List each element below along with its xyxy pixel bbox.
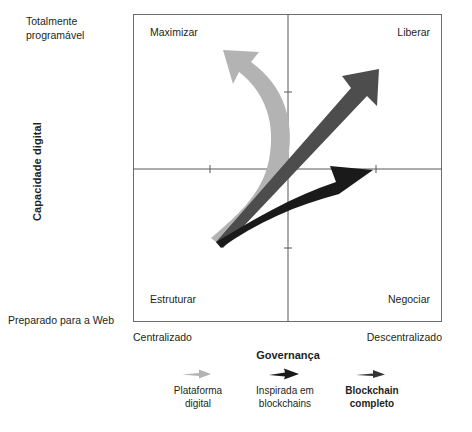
legend-arrow-light-icon	[181, 366, 215, 382]
legend-label-blockchain-completo: Blockchain completo	[345, 385, 398, 410]
legend-item-plataforma-digital: Plataforma digital	[160, 366, 236, 410]
x-axis-title: Governança	[190, 349, 386, 362]
x-axis-left-label: Centralizado	[133, 331, 192, 344]
legend-arrow-black-icon	[355, 366, 389, 382]
y-axis-bottom-label: Preparado para a Web	[8, 314, 130, 327]
quadrant-label-liberar: Liberar	[330, 26, 430, 38]
legend-label-inspirada-blockchains: Inspirada em blockchains	[256, 385, 314, 410]
x-axis-right-label: Descentralizado	[330, 331, 442, 344]
legend-label-plataforma-digital: Plataforma digital	[174, 385, 222, 410]
chart-legend: Plataforma digital Inspirada em blockcha…	[160, 366, 410, 410]
quadrant-label-estruturar: Estruturar	[150, 293, 196, 305]
series-arrow-inspirada-blockchains	[216, 69, 379, 248]
quadrant-label-negociar: Negociar	[330, 293, 430, 305]
legend-arrow-dark-icon	[268, 366, 302, 382]
y-axis-title: Capacidade digital	[31, 102, 44, 242]
quadrant-label-maximizar: Maximizar	[150, 26, 198, 38]
legend-item-blockchain-completo: Blockchain completo	[334, 366, 410, 410]
chart-canvas	[133, 14, 442, 322]
y-axis-top-label: Totalmente programável	[26, 14, 126, 42]
legend-item-inspirada-blockchains: Inspirada em blockchains	[247, 366, 323, 410]
series-arrow-blockchain-completo	[216, 166, 373, 248]
